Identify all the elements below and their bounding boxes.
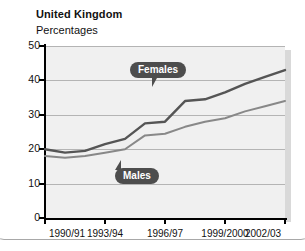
females-callout-tail — [152, 78, 157, 87]
x-axis-tick — [284, 219, 286, 224]
line-males — [45, 101, 285, 158]
y-axis-tick-label: 10 — [28, 177, 40, 189]
legend-label-males: Males — [115, 168, 159, 184]
y-axis-tick-label: 30 — [28, 108, 40, 120]
chart-subtitle: Percentages — [36, 24, 98, 36]
x-axis-tick — [104, 219, 106, 224]
x-axis-tick — [224, 219, 226, 224]
y-axis-tick-label: 0 — [34, 211, 40, 223]
x-axis-tick-label: 1996/97 — [147, 228, 183, 239]
x-axis-tick-label: 1993/94 — [87, 228, 123, 239]
y-axis-tick-label: 20 — [28, 142, 40, 154]
x-axis-tick — [164, 219, 166, 224]
page-title: United Kingdom — [36, 8, 122, 20]
x-axis-tick-label: 1990/91 — [49, 228, 85, 239]
plot-shadow — [285, 50, 291, 222]
chart-figure: United Kingdom Percentages 01020304050 1… — [0, 0, 305, 251]
legend-label-females: Females — [130, 62, 186, 78]
x-axis-tick-label: 1999/2000 — [201, 228, 248, 239]
y-axis-tick-label: 40 — [28, 73, 40, 85]
y-axis-tick-label: 50 — [28, 39, 40, 51]
x-axis-tick-label: 2002/03 — [245, 228, 281, 239]
x-axis-tick — [44, 219, 46, 224]
